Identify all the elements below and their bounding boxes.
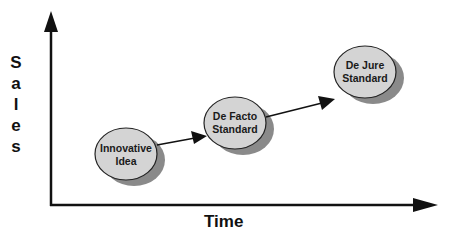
node-label-line: De Facto <box>200 110 270 123</box>
x-axis <box>50 198 438 212</box>
y-axis-label: S a l e s <box>6 52 26 157</box>
node-label-line: Standard <box>330 72 400 85</box>
y-axis <box>44 11 58 206</box>
y-axis-letter: a <box>6 73 26 94</box>
y-axis-letter: S <box>6 52 26 73</box>
node-label-de-facto-standard: De Facto Standard <box>200 110 270 136</box>
y-axis-letter: s <box>6 136 26 157</box>
node-label-line: Innovative <box>91 142 161 155</box>
edge-defacto-to-dejure <box>266 96 335 117</box>
node-label-innovative-idea: Innovative Idea <box>91 142 161 168</box>
node-label-line: Idea <box>91 155 161 168</box>
node-label-line: De Jure <box>330 59 400 72</box>
y-axis-letter: e <box>6 115 26 136</box>
x-axis-label: Time <box>204 212 243 232</box>
y-axis-letter: l <box>6 94 26 115</box>
edge-arrowhead-icon <box>318 96 335 110</box>
node-label-de-jure-standard: De Jure Standard <box>330 59 400 85</box>
x-axis-arrowhead-icon <box>413 198 438 212</box>
node-label-line: Standard <box>200 123 270 136</box>
y-axis-arrowhead-icon <box>44 11 58 32</box>
